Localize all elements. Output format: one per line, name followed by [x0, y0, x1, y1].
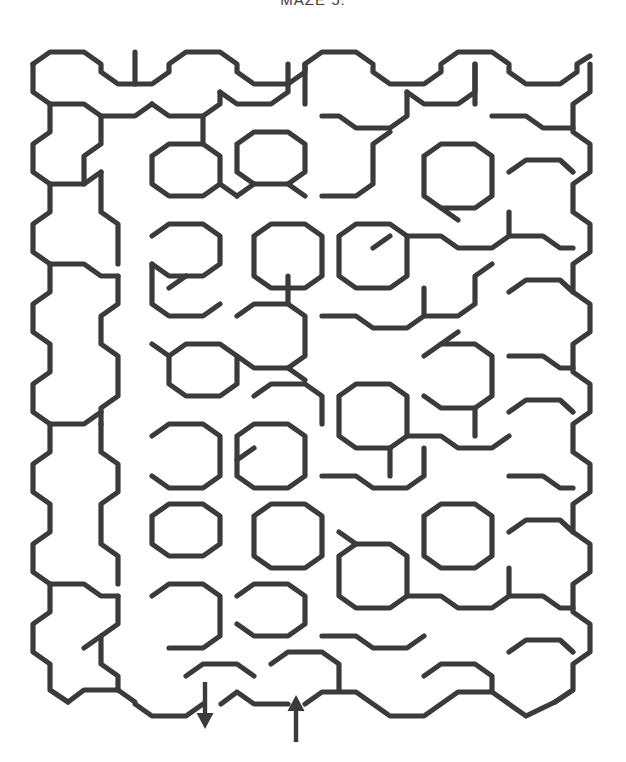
- maze-wall-segment: [68, 690, 203, 716]
- maze-wall-segment: [237, 304, 305, 368]
- maze-wall-segment: [169, 344, 237, 396]
- maze-wall-segment: [237, 424, 305, 488]
- maze-wall-segment: [221, 692, 288, 704]
- maze-wall-segment: [237, 584, 305, 636]
- maze-wall-segment: [407, 568, 509, 608]
- maze-wall-segment: [33, 52, 590, 84]
- maze-wall-segment: [50, 584, 118, 596]
- maze-wall-segment: [322, 132, 390, 196]
- maze-wall-segment: [424, 344, 492, 408]
- maze-exit-arrow-head: [197, 713, 214, 729]
- maze-figure: [0, 0, 626, 762]
- maze-walls: [33, 52, 590, 716]
- maze-wall-segment: [237, 132, 305, 184]
- maze-wall-segment: [339, 384, 407, 448]
- maze-wall-segment: [288, 184, 305, 196]
- maze-wall-segment: [254, 504, 322, 568]
- maze-wall-segment: [322, 92, 407, 128]
- maze-wall-segment: [50, 264, 118, 276]
- maze-wall-segment: [509, 280, 573, 292]
- maze-wall-segment: [152, 424, 220, 488]
- maze-wall-segment: [509, 160, 573, 172]
- maze-wall-segment: [288, 368, 305, 380]
- maze-wall-segment: [424, 144, 492, 208]
- maze-wall-segment: [50, 412, 101, 424]
- maze-wall-segment: [339, 532, 356, 544]
- maze-wall-segment: [271, 652, 339, 690]
- maze-wall-segment: [373, 236, 390, 248]
- maze-wall-segment: [509, 236, 573, 248]
- maze-wall-segment: [186, 664, 254, 676]
- maze-wall-segment: [339, 224, 407, 288]
- maze-wall-segment: [509, 596, 573, 608]
- maze-wall-segment: [424, 504, 492, 568]
- maze-page: MAZE 5:: [0, 0, 626, 762]
- maze-wall-segment: [424, 664, 492, 690]
- maze-wall-segment: [322, 288, 424, 328]
- maze-wall-segment: [33, 64, 68, 702]
- maze-wall-segment: [101, 276, 118, 424]
- maze-wall-segment: [152, 344, 169, 356]
- maze-wall-segment: [424, 264, 492, 316]
- maze-wall-segment: [509, 400, 573, 412]
- maze-wall-segment: [101, 424, 118, 584]
- maze-wall-segment: [339, 544, 407, 608]
- maze-wall-segment: [101, 172, 118, 264]
- maze-wall-segment: [101, 596, 118, 690]
- maze-wall-segment: [509, 356, 573, 368]
- maze-wall-segment: [237, 184, 254, 196]
- maze-wall-segment: [152, 224, 220, 276]
- maze-wall-segment: [152, 92, 220, 116]
- maze-wall-segment: [152, 584, 220, 648]
- maze-wall-segment: [220, 184, 237, 196]
- maze-wall-segment: [492, 116, 573, 128]
- maze-wall-segment: [322, 448, 424, 488]
- maze-wall-segment: [254, 384, 322, 424]
- maze-wall-segment: [509, 520, 573, 532]
- maze-wall-segment: [509, 476, 573, 488]
- maze-wall-segment: [322, 636, 424, 648]
- maze-wall-segment: [305, 692, 555, 716]
- maze-wall-segment: [152, 504, 220, 556]
- maze-wall-segment: [509, 640, 573, 652]
- maze-wall-segment: [152, 144, 220, 196]
- maze-wall-segment: [50, 172, 101, 184]
- maze-markers: [197, 682, 305, 742]
